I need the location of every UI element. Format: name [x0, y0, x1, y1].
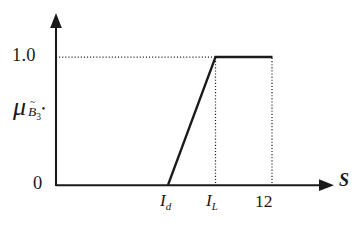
y-axis-label-subscript: ~ B 3•	[28, 105, 45, 119]
b-star-marker: •	[42, 102, 46, 114]
y-axis-arrow-icon	[50, 13, 62, 28]
y-axis-label: μ ~ B 3•	[13, 96, 45, 121]
x-tick-label-twelve: 12	[255, 193, 273, 211]
tilde-accent-icon: ~	[29, 97, 37, 107]
x-tick-label-il: IL	[206, 192, 218, 212]
b-index: 3	[36, 112, 41, 122]
x-tick-label-id: Id	[160, 192, 171, 212]
membership-function-figure: 1.0 0 μ ~ B 3• Id IL 12 S	[0, 0, 362, 231]
x-tick-il-sub: L	[212, 200, 218, 212]
y-tick-label-zero: 0	[33, 174, 42, 193]
mu-glyph: μ	[13, 95, 26, 120]
x-tick-id-sub: d	[166, 200, 172, 212]
x-axis-label: S	[339, 171, 349, 189]
y-tick-label-one: 1.0	[12, 46, 36, 65]
x-axis-arrow-icon	[319, 179, 334, 191]
plot-canvas	[0, 0, 362, 231]
membership-curve	[168, 57, 273, 185]
